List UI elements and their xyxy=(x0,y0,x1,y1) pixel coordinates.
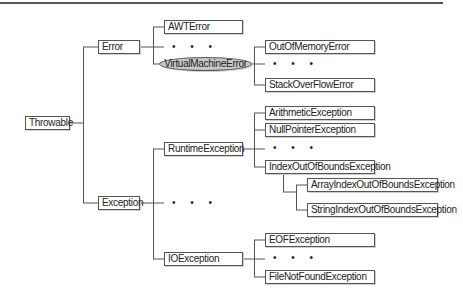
ellipsis-vm-error-children: • • • xyxy=(273,59,319,69)
node-awt-error: AWTError xyxy=(164,20,243,34)
node-null-pointer-exception: NullPointerException xyxy=(265,123,375,137)
ellipsis-error-children: • • • xyxy=(172,42,218,52)
node-virtual-machine-error: VirtualMachineError xyxy=(159,57,252,71)
node-runtime-exception: RuntimeException xyxy=(164,142,243,156)
node-io-exception: IOException xyxy=(164,252,243,266)
node-exception: Exception xyxy=(98,196,140,210)
node-index-out-of-bounds-exception: IndexOutOfBoundsException xyxy=(265,160,375,174)
node-file-not-found-exception: FileNotFoundException xyxy=(265,270,375,284)
node-array-index-out-of-bounds-exception: ArrayIndexOutOfBoundsException xyxy=(307,178,438,192)
node-eof-exception: EOFException xyxy=(265,233,375,247)
ellipsis-io-children: • • • xyxy=(273,253,319,263)
node-throwable: Throwable xyxy=(25,116,70,130)
node-stack-overflow-error: StackOverFlowError xyxy=(265,78,375,92)
node-out-of-memory-error: OutOfMemoryError xyxy=(265,40,375,54)
node-string-index-out-of-bounds-exception: StringIndexOutOfBoundsException xyxy=(307,203,438,217)
node-arithmetic-exception: ArithmeticException xyxy=(265,106,375,120)
node-error: Error xyxy=(98,40,140,54)
ellipsis-runtime-children: • • • xyxy=(273,143,319,153)
ellipsis-exception-children: • • • xyxy=(172,198,218,208)
